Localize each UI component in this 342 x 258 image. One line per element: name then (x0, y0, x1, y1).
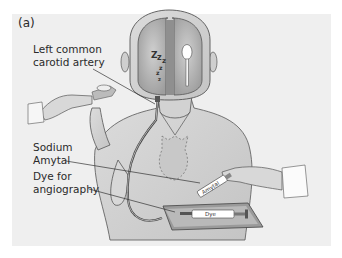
label-line: Dye for (33, 170, 99, 183)
svg-text:z: z (158, 76, 161, 82)
label-line: carotid artery (33, 56, 105, 69)
label-sodium-amytal: Sodium Amytal (33, 141, 73, 167)
wada-test-illustration: Z z z z z z Amytal (0, 0, 342, 258)
label-dye-for-angiography: Dye for angiography (33, 170, 99, 196)
panel-letter: (a) (18, 16, 35, 30)
label-line: Left common (33, 43, 105, 56)
svg-text:z: z (162, 57, 166, 65)
label-line: Amytal (33, 154, 73, 167)
label-line: angiography (33, 183, 99, 196)
heart-outline (159, 136, 188, 180)
brain: Z z z z z z (138, 18, 202, 95)
label-line: Sodium (33, 141, 73, 154)
dye-syringe-label: Dye (205, 211, 216, 218)
svg-text:z: z (159, 64, 163, 71)
left-hand-holding-instrument (28, 85, 116, 124)
label-left-common-carotid: Left common carotid artery (33, 43, 105, 69)
svg-text:z: z (156, 69, 160, 76)
